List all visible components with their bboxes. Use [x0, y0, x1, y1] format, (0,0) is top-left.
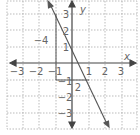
svg-text:−2: −2 [58, 92, 73, 103]
svg-text:−1: −1 [58, 76, 73, 87]
y-axis-label: y [79, 4, 87, 15]
svg-text:−2: −2 [29, 66, 44, 77]
svg-text:1: 1 [86, 66, 92, 77]
graph-canvas: −3 −2 −1 1 2 3 3 2 1 −1 −2 −3 y x −4 2 [0, 0, 140, 135]
axes [10, 1, 136, 128]
run-label: 2 [75, 82, 81, 93]
svg-text:−3: −3 [58, 108, 73, 119]
svg-text:2: 2 [102, 66, 108, 77]
rise-label: −4 [34, 35, 49, 46]
coordinate-graph: −3 −2 −1 1 2 3 3 2 1 −1 −2 −3 y x −4 2 [0, 0, 140, 135]
svg-text:3: 3 [118, 66, 124, 77]
svg-text:−3: −3 [10, 66, 25, 77]
svg-text:3: 3 [63, 9, 69, 20]
svg-text:2: 2 [63, 26, 69, 37]
svg-text:1: 1 [63, 42, 69, 53]
x-axis-label: x [123, 51, 130, 62]
